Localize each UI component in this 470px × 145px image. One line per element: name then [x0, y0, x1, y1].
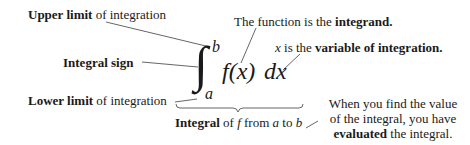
- evaluated-bold: evaluated: [334, 126, 387, 141]
- integral-from: from: [241, 115, 273, 130]
- integral-label: Integral of f from a to b: [175, 115, 302, 130]
- evaluated-rest: the integral.: [387, 126, 452, 141]
- underbrace: [176, 104, 303, 112]
- differential: dx: [264, 58, 287, 85]
- evaluated-line1: When you find the value: [318, 96, 468, 111]
- integral-sign-bold: Integral sign: [63, 55, 133, 70]
- evaluated-line2: of the integral, you have: [318, 111, 468, 126]
- integral-to: to: [279, 115, 296, 130]
- lower-limit-leader: [175, 99, 197, 102]
- lower-limit-label: Lower limit of integration: [28, 93, 167, 108]
- integral-of: of: [220, 115, 237, 130]
- variable-prefix: is the: [281, 40, 315, 55]
- variable-bold: variable of integration.: [315, 40, 442, 55]
- lower-limit-symbol: a: [205, 85, 213, 103]
- lower-limit-bold: Lower limit: [28, 93, 93, 108]
- integral-b: b: [296, 115, 303, 130]
- integral-sign-leader: [142, 62, 198, 67]
- evaluated-note: When you find the value of the integral,…: [318, 96, 468, 141]
- integrand-bold: integrand.: [335, 14, 392, 29]
- integrand-prefix: The function is the: [234, 14, 335, 29]
- upper-limit-symbol: b: [212, 38, 220, 56]
- integrand: f(x): [222, 58, 255, 85]
- variable-label: x is the variable of integration.: [275, 40, 443, 55]
- upper-limit-label: Upper limit of integration: [28, 7, 166, 22]
- evaluated-leader: [306, 121, 318, 128]
- upper-limit-bold: Upper limit: [28, 7, 92, 22]
- integral-bold: Integral: [175, 115, 220, 130]
- upper-limit-rest: of integration: [92, 7, 166, 22]
- integrand-label: The function is the integrand.: [234, 14, 393, 29]
- evaluated-line3: evaluated the integral.: [318, 126, 468, 141]
- integral-sign-label: Integral sign: [63, 55, 133, 70]
- lower-limit-rest: of integration: [93, 93, 167, 108]
